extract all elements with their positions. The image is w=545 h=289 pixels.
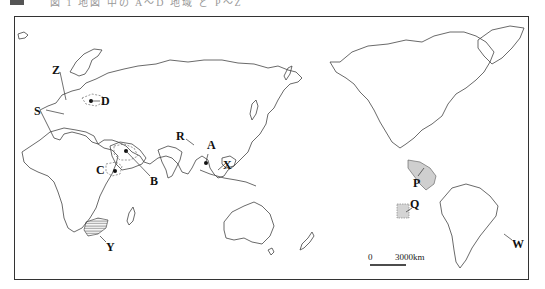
label-s: S xyxy=(34,105,41,117)
leader-r xyxy=(186,139,194,145)
leader-s xyxy=(46,110,64,114)
label-a: A xyxy=(207,139,216,151)
label-q: Q xyxy=(410,198,419,210)
region-c-dot xyxy=(113,169,117,173)
south-america-outline xyxy=(440,184,498,268)
north-america-outline xyxy=(330,32,494,148)
label-w: W xyxy=(512,238,524,250)
iceland-outline xyxy=(18,32,28,39)
label-d: D xyxy=(101,95,110,107)
kamchatka-outline xyxy=(284,66,292,80)
label-p: P xyxy=(413,177,420,189)
africa-outline xyxy=(22,128,118,232)
india-outline xyxy=(158,146,182,178)
label-b: B xyxy=(150,175,158,187)
scale-zero: 0 xyxy=(368,253,373,262)
label-r: R xyxy=(176,130,185,142)
eurasia-outline xyxy=(40,60,302,178)
australia-outline xyxy=(224,202,274,244)
tasmania-outline xyxy=(268,248,274,255)
greenland-outline xyxy=(478,26,524,64)
sea-islands-outline xyxy=(200,170,256,186)
japan-outline xyxy=(250,100,258,120)
madagascar-outline xyxy=(127,207,135,225)
label-y: Y xyxy=(106,241,115,253)
world-map xyxy=(0,0,545,289)
label-z: Z xyxy=(52,64,60,76)
leader-a xyxy=(206,154,208,162)
label-c: C xyxy=(96,164,105,176)
scale-distance: 3000km xyxy=(395,253,425,262)
new-zealand-outline xyxy=(300,232,314,250)
scandinavia-outline xyxy=(70,49,102,76)
label-x: X xyxy=(223,159,232,171)
leader-w xyxy=(504,234,512,240)
